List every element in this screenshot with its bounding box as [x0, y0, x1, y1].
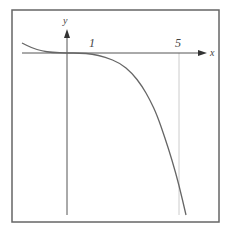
plot-frame [12, 10, 219, 222]
y-axis-label: y [62, 15, 68, 26]
x-tick-label-5: 5 [175, 36, 181, 50]
y-axis-arrow-icon [64, 29, 70, 38]
plot-canvas: x y 1 5 [0, 0, 231, 232]
x-axis-label: x [209, 47, 215, 58]
x-tick-label-1: 1 [89, 36, 95, 50]
x-axis-arrow-icon [198, 50, 207, 56]
curve-line [22, 43, 186, 215]
